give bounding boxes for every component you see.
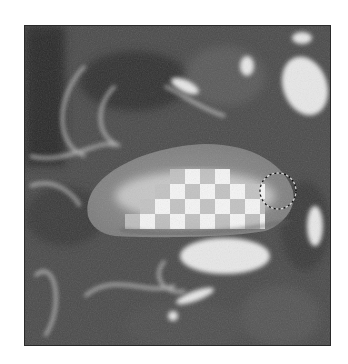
photo-layer: [25, 26, 331, 346]
image-canvas[interactable]: [24, 25, 331, 346]
